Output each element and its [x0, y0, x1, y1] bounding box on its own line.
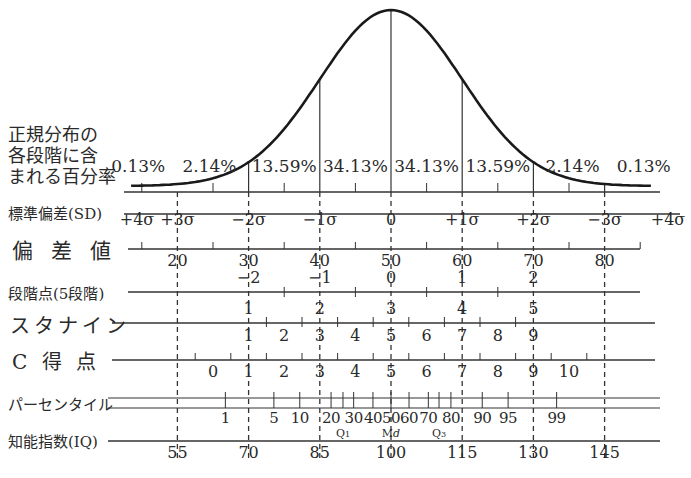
percent-value: 0.13% — [111, 156, 165, 176]
c-score-label: 10 — [559, 362, 579, 381]
stanine-label: 6 — [422, 326, 432, 345]
sd-tick-label: +4σ — [120, 210, 155, 229]
percentile-label: 60 — [400, 409, 418, 427]
stanine-label: 5 — [386, 326, 396, 345]
percent-value: 2.14% — [546, 156, 600, 176]
c-score-label: 5 — [386, 362, 396, 381]
sd-tick-label: +2σ — [516, 210, 551, 229]
c-score-label: 6 — [422, 362, 432, 381]
stanine-label: 9 — [528, 326, 538, 345]
percent-value: 34.13% — [394, 156, 459, 176]
five-level-label: −1 — [308, 268, 332, 287]
iq-row-label: 知能指数(IQ) — [8, 430, 98, 451]
five-level-row-label: 段階点(5段階) — [8, 282, 104, 303]
iq-label: 85 — [310, 443, 330, 462]
iq-label: 145 — [589, 443, 620, 462]
stanine-label: 4 — [350, 326, 360, 345]
stanine-label: 7 — [457, 326, 467, 345]
sd-tick-label: −2σ — [231, 210, 266, 229]
five-level-label: 2 — [528, 268, 538, 287]
deviation-label: 80 — [594, 251, 614, 270]
percentile-label: 70 — [419, 409, 437, 427]
percentile-label: 10 — [291, 409, 309, 427]
iq-label: 55 — [167, 443, 187, 462]
iq-label: 130 — [518, 443, 549, 462]
c-score-label: 2 — [279, 362, 289, 381]
stanine-five-label: 4 — [457, 299, 467, 318]
percentile-label: 1 — [221, 409, 230, 427]
percent-label-line-2: 各段階に含 — [8, 145, 116, 166]
stanine-five-label: 5 — [528, 299, 538, 318]
quartile-subscript: 3 — [441, 430, 446, 439]
c-score-label: 7 — [457, 362, 467, 381]
percentile-label: 99 — [548, 409, 566, 427]
stanine-five-label: 3 — [386, 299, 396, 318]
percentile-row-label: パーセンタイル — [8, 393, 113, 414]
percentile-label: 40 — [364, 409, 382, 427]
stanine-five-label: 1 — [244, 299, 254, 318]
sd-tick-label: +1σ — [445, 210, 480, 229]
five-level-label: 1 — [457, 268, 467, 287]
c-score-label: 4 — [350, 362, 360, 381]
percent-value: 0.13% — [617, 156, 671, 176]
quartile-label: Q3 — [432, 427, 446, 440]
percentile-label: 30 — [345, 409, 363, 427]
quartile-subscript: 1 — [345, 430, 350, 439]
percentile-label: 95 — [499, 409, 517, 427]
stanine-row-label: スタナイン — [10, 310, 130, 339]
c-score-label: 3 — [315, 362, 325, 381]
percent-value: 13.59% — [252, 156, 317, 176]
stanine-label: 1 — [244, 326, 254, 345]
stanine-five-label: 2 — [315, 299, 325, 318]
c-score-label: 1 — [244, 362, 254, 381]
iq-label: 100 — [376, 443, 407, 462]
stanine-label: 8 — [493, 326, 503, 345]
stanine-label: 2 — [279, 326, 289, 345]
percent-value: 2.14% — [182, 156, 236, 176]
deviation-label: 20 — [167, 251, 187, 270]
c-score-label: 9 — [528, 362, 538, 381]
percentile-label: 90 — [473, 409, 491, 427]
sd-tick-label: −3σ — [587, 210, 622, 229]
quartile-subscript: d — [393, 427, 400, 440]
iq-label: 70 — [238, 443, 258, 462]
percent-label-line-1: 正規分布の — [8, 124, 116, 145]
percentile-label: 50 — [382, 409, 400, 427]
sd-row-label: 標準偏差(SD) — [8, 202, 102, 223]
percent-label-line-3: まれる百分率 — [8, 166, 116, 187]
sd-tick-label: 0 — [386, 210, 396, 229]
iq-label: 115 — [447, 443, 478, 462]
five-level-label: −2 — [237, 268, 261, 287]
sd-tick-label: −1σ — [303, 210, 338, 229]
percent-label: 正規分布の 各段階に含 まれる百分率 — [8, 124, 116, 187]
percentile-label: 5 — [269, 409, 278, 427]
percent-value: 34.13% — [323, 156, 388, 176]
five-level-label: 0 — [386, 268, 396, 287]
stanine-label: 3 — [315, 326, 325, 345]
percentile-label: 20 — [322, 409, 340, 427]
percentile-label: 80 — [442, 409, 460, 427]
sd-tick-label: +3σ — [160, 210, 195, 229]
deviation-row-label: 偏差値 — [12, 234, 129, 264]
percent-value: 13.59% — [465, 156, 530, 176]
c-score-label: 0 — [208, 362, 218, 381]
quartile-label: Md — [382, 427, 400, 440]
sd-tick-label: +4σ — [651, 210, 686, 229]
c-score-row-label: C 得 点 — [12, 346, 100, 375]
quartile-label: Q1 — [336, 427, 350, 440]
c-score-label: 8 — [493, 362, 503, 381]
